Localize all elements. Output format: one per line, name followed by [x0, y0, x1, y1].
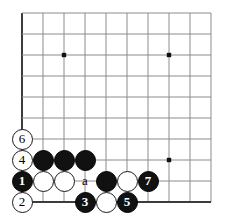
- move-number: 2: [19, 195, 26, 208]
- stone-white: [96, 192, 117, 213]
- move-number: 4: [19, 153, 26, 166]
- stone-black: [96, 171, 117, 192]
- go-board-grid: [0, 0, 231, 222]
- go-diagram: 6412735 a: [0, 0, 231, 222]
- stone-black-move-3: 3: [75, 192, 96, 213]
- stone-black: [75, 150, 96, 171]
- stone-white: [117, 171, 138, 192]
- move-number: 1: [19, 174, 26, 187]
- stone-white: [54, 171, 75, 192]
- star-point: [167, 158, 171, 162]
- point-label-a: a: [75, 171, 96, 192]
- stone-black-move-5: 5: [117, 192, 138, 213]
- star-point: [167, 53, 171, 57]
- stone-black-move-1: 1: [12, 171, 33, 192]
- stone-white-move-2: 2: [12, 192, 33, 213]
- move-number: 3: [82, 195, 89, 208]
- move-number: 6: [19, 132, 26, 145]
- stone-black-move-7: 7: [138, 171, 159, 192]
- stone-black: [33, 150, 54, 171]
- stone-white: [33, 171, 54, 192]
- star-points: [62, 53, 171, 162]
- move-number: 5: [124, 195, 131, 208]
- stone-white-move-6: 6: [12, 129, 33, 150]
- stone-black: [54, 150, 75, 171]
- move-number: 7: [145, 174, 152, 187]
- stone-white-move-4: 4: [12, 150, 33, 171]
- star-point: [62, 53, 66, 57]
